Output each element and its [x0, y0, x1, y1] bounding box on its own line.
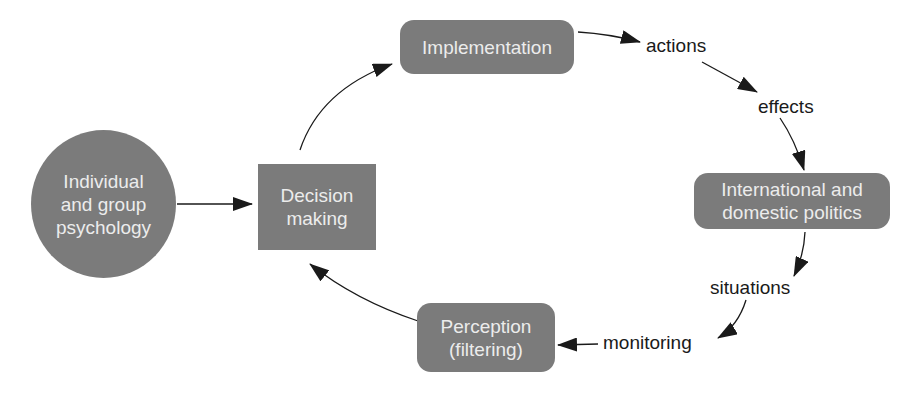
edge-politics-situations: [794, 232, 805, 276]
node-international-domestic-politics: International and domestic politics: [694, 173, 890, 229]
label-monitoring: monitoring: [603, 332, 692, 354]
edge-perception-decision: [310, 264, 418, 321]
node-individual-group-psychology: Individual and group psychology: [31, 130, 176, 278]
label-effects: effects: [758, 96, 814, 118]
edge-effects-politics: [780, 118, 804, 170]
edge-monitoring-perception: [558, 344, 598, 345]
node-perception-filtering: Perception (filtering): [417, 303, 555, 372]
label-situations: situations: [710, 277, 790, 299]
node-implementation: Implementation: [400, 20, 574, 74]
label-actions: actions: [646, 35, 706, 57]
edge-implementation-actions: [578, 32, 640, 42]
edge-situations-monitoring: [718, 300, 746, 338]
node-decision-making: Decision making: [258, 164, 376, 250]
edge-actions-effects: [702, 62, 757, 92]
edge-decision-implementation: [300, 64, 392, 150]
